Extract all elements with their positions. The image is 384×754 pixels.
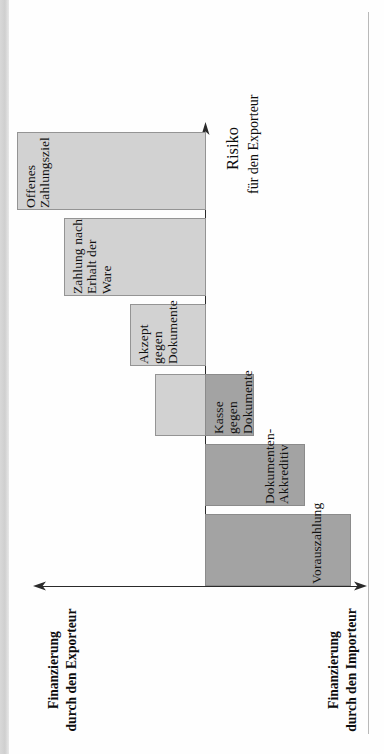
bar-label-vorauszahlung: Vorauszahlung (310, 512, 324, 584)
chart-plot-area: Offenes Zahlungsziel Zahlung nach Erhalt… (0, 0, 384, 754)
bar-label-akzept-gegen-dokumente: Akzept gegen Dokumente (137, 302, 180, 364)
bar-label-offenes-zahlungsziel: Offenes Zahlungsziel (24, 130, 53, 208)
page-canvas: Offenes Zahlungsziel Zahlung nach Erhalt… (0, 0, 384, 754)
bar-label-dokumenten-akkreditiv: Dokumenten- Akkreditiv (263, 442, 292, 504)
bar-kasse-gegen-dokumente-left (155, 374, 206, 436)
bar-vorauszahlung (205, 514, 351, 586)
bar-label-kasse-gegen-dokumente: Kasse gegen Dokumente (212, 372, 255, 434)
bar-label-zahlung-nach-erhalt-der-ware: Zahlung nach Erhalt der Ware (71, 216, 114, 294)
